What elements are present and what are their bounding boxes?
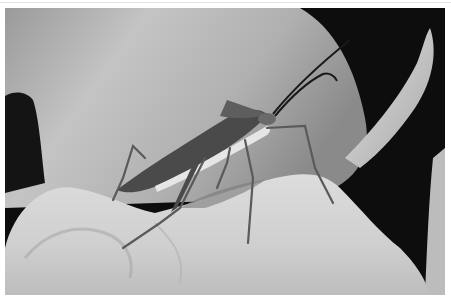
insect-photo-illustration [5,8,445,295]
top-divider [0,2,451,3]
image-frame: Grayscale macro photograph of a long-leg… [0,0,451,299]
photograph: Grayscale macro photograph of a long-leg… [5,8,445,295]
